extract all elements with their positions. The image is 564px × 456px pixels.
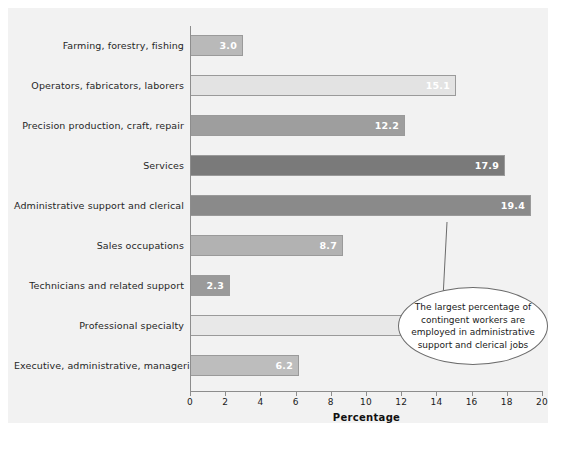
x-axis-title: Percentage [190, 412, 543, 423]
bar-value-label: 6.2 [276, 356, 293, 377]
callout-line: employed in administrative [411, 326, 535, 339]
x-tick-label: 2 [215, 397, 235, 407]
x-tick-label: 12 [391, 397, 411, 407]
x-tick-label: 18 [497, 397, 517, 407]
bar-value-label: 17.9 [475, 156, 499, 177]
category-label: Technicians and related support [14, 266, 184, 306]
category-label: Operators, fabricators, laborers [14, 66, 184, 106]
bar-chart: Farming, forestry, fishing3.0Operators, … [0, 0, 564, 456]
callout-line: The largest percentage of [415, 301, 531, 314]
chart-root: Farming, forestry, fishing3.0Operators, … [0, 0, 564, 456]
bar-value-label: 2.3 [207, 276, 224, 297]
category-label: Precision production, craft, repair [14, 106, 184, 146]
bar: 8.7 [190, 235, 343, 256]
bar: 3.0 [190, 35, 243, 56]
y-axis-line [190, 26, 191, 391]
x-tick [190, 391, 191, 396]
category-label: Executive, administrative, managerial [14, 346, 184, 386]
x-tick [542, 391, 543, 396]
bar-row: Operators, fabricators, laborers15.1 [0, 66, 564, 106]
bar-value-label: 19.4 [501, 196, 525, 217]
category-label: Farming, forestry, fishing [14, 26, 184, 66]
x-tick [260, 391, 261, 396]
x-tick-label: 16 [462, 397, 482, 407]
x-tick [296, 391, 297, 396]
bar: 17.9 [190, 155, 505, 176]
bar-row: Administrative support and clerical19.4 [0, 186, 564, 226]
bar-value-label: 12.2 [375, 116, 399, 137]
bar: 2.3 [190, 275, 230, 296]
bar-row: Services17.9 [0, 146, 564, 186]
bar-row: Precision production, craft, repair12.2 [0, 106, 564, 146]
x-tick [401, 391, 402, 396]
x-tick-label: 4 [250, 397, 270, 407]
x-tick [472, 391, 473, 396]
x-tick [331, 391, 332, 396]
category-label: Administrative support and clerical [14, 186, 184, 226]
x-tick-label: 8 [321, 397, 341, 407]
bar-value-label: 3.0 [220, 36, 237, 57]
x-tick-label: 6 [286, 397, 306, 407]
callout-text: The largest percentage ofcontingent work… [404, 292, 542, 360]
bar-row: Farming, forestry, fishing3.0 [0, 26, 564, 66]
bar: 19.4 [190, 195, 531, 216]
x-tick-label: 20 [532, 397, 552, 407]
category-label: Professional specialty [14, 306, 184, 346]
bar-value-label: 15.1 [426, 76, 450, 97]
x-tick [366, 391, 367, 396]
callout-line: support and clerical jobs [418, 339, 529, 352]
x-tick [225, 391, 226, 396]
bar-value-label: 8.7 [320, 236, 337, 257]
bar-row: Sales occupations8.7 [0, 226, 564, 266]
category-label: Services [14, 146, 184, 186]
category-label: Sales occupations [14, 226, 184, 266]
bar: 12.2 [190, 115, 405, 136]
x-tick [507, 391, 508, 396]
x-tick [436, 391, 437, 396]
bar: 6.2 [190, 355, 299, 376]
x-tick-label: 10 [356, 397, 376, 407]
x-tick-label: 14 [426, 397, 446, 407]
callout-line: contingent workers are [421, 314, 525, 327]
bar: 15.1 [190, 75, 456, 96]
x-tick-label: 0 [180, 397, 200, 407]
